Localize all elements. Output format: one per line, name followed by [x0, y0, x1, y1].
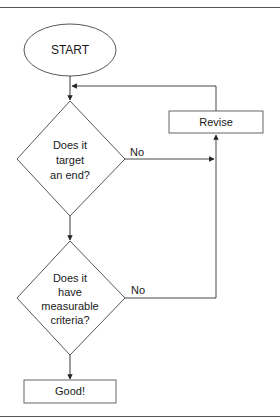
decision1-label: Does it target an end? — [30, 138, 110, 183]
decision2-label: Does it have measurable criteria? — [25, 271, 115, 327]
decision2-no-label: No — [131, 283, 151, 297]
revise-node-label: Revise — [169, 115, 263, 129]
flowchart-canvas — [0, 0, 280, 420]
decision1-no-label: No — [130, 145, 150, 159]
start-node-label: START — [24, 43, 116, 57]
good-node-label: Good! — [24, 384, 116, 398]
edge-revise-to-decision1 — [72, 86, 216, 111]
